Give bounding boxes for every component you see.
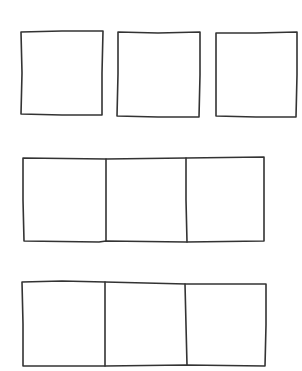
sketch-canvas: [0, 0, 302, 371]
row-joined-boxes-1: [23, 157, 264, 242]
row-3-divider-2: [185, 284, 187, 365]
row-separated-boxes: [21, 31, 297, 117]
box-1: [21, 31, 103, 115]
row-joined-boxes-2: [22, 281, 266, 366]
box-2: [117, 32, 200, 117]
box-3: [216, 32, 297, 117]
row-3-frame: [22, 281, 266, 366]
row-2-frame: [23, 157, 264, 242]
row-2-divider-2: [186, 158, 187, 242]
